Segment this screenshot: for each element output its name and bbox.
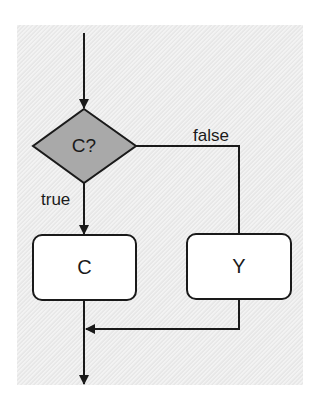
- merge-arrow: [86, 299, 239, 329]
- false-branch-line: [136, 146, 239, 234]
- decision-label: C?: [44, 132, 124, 160]
- process-label-y: Y: [187, 234, 291, 299]
- flowchart-canvas: [0, 0, 313, 419]
- true-edge-label: true: [41, 191, 70, 208]
- false-edge-label: false: [193, 127, 229, 144]
- process-label-c: C: [33, 235, 136, 300]
